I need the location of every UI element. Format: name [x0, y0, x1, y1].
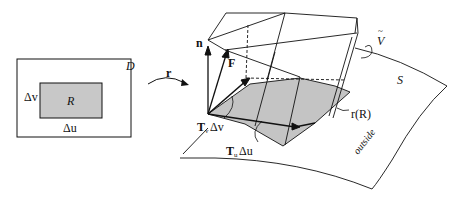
svg-text:V: V	[377, 34, 386, 48]
field-label: F	[228, 56, 235, 70]
normal-arrowhead	[205, 46, 211, 55]
region-label: R	[66, 94, 75, 108]
svg-text:T: T	[197, 120, 205, 134]
svg-text:~: ~	[378, 26, 383, 36]
svg-text:v: v	[205, 127, 209, 135]
flux-diagram: D R Δv Δu r n F T v Δv T u Δu r(R) V ~ S…	[0, 0, 466, 199]
outside-label: outside	[351, 126, 378, 156]
svg-text:Δu: Δu	[239, 144, 253, 158]
normal-label: n	[196, 36, 203, 50]
domain-label: D	[125, 59, 135, 73]
volume-label: V ~	[377, 26, 386, 48]
tangent-v-label: T v Δv	[197, 120, 224, 135]
image-region-label: r(R)	[351, 107, 371, 121]
surface-label: S	[397, 73, 403, 87]
mapping-label: r	[166, 66, 172, 80]
svg-text:Δv: Δv	[210, 120, 224, 134]
svg-text:u: u	[234, 151, 238, 159]
delta-u-label: Δu	[63, 121, 77, 135]
svg-text:T: T	[226, 144, 234, 158]
tangent-u-label: T u Δu	[226, 144, 253, 159]
delta-v-label: Δv	[24, 90, 38, 104]
